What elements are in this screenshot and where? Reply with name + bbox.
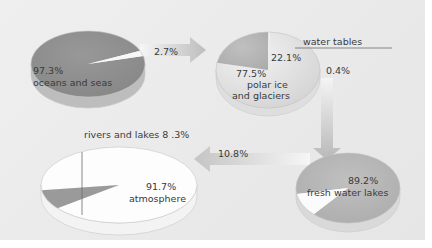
polar-percent-label: 77.5% — [236, 68, 266, 79]
diagram-graphics — [0, 0, 432, 248]
polar-name-label-2: and glaciers — [232, 90, 290, 101]
fresh-percent-label: 89.2% — [348, 175, 378, 186]
rivers-and-lakes-label: rivers and lakes 8 .3% — [84, 129, 189, 140]
flow-fresh-to-atmosphere-label: 10.8% — [218, 148, 248, 159]
water-tables-name-label: water tables — [303, 36, 362, 47]
atmosphere-percent-label: 91.7% — [146, 181, 176, 192]
water-tables-percent-label: 22.1% — [271, 52, 301, 63]
atmosphere-name-label: atmosphere — [129, 193, 186, 204]
flow-polar-to-fresh-label: 0.4% — [326, 65, 350, 76]
polar-name-label-1: polar ice — [247, 79, 288, 90]
oceans-percent-label: 97.3% — [33, 65, 63, 76]
flow-oceans-to-polar-label: 2.7% — [154, 46, 178, 57]
flow-arrow-fresh-to-atmosphere — [194, 146, 310, 172]
oceans-name-label: oceans and seas — [33, 77, 112, 88]
water-distribution-diagram: 97.3% oceans and seas 2.7% 77.5% polar i… — [0, 0, 432, 248]
fresh-name-label: fresh water lakes — [307, 187, 388, 198]
